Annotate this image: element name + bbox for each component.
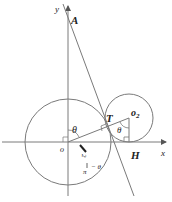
point-o2-label: o2 <box>131 107 140 120</box>
y-axis-label: y <box>54 4 59 14</box>
theta-o2-label: θ <box>117 125 122 135</box>
x-axis-label: x <box>160 148 165 158</box>
point-h-label: H <box>130 149 140 161</box>
point-t-label: T <box>106 112 114 124</box>
geometry-diagram: y x o A T o2 H θ θ 2 π − θ <box>0 0 172 202</box>
right-angle-origin <box>63 137 68 142</box>
theta-origin-label: θ <box>72 124 77 135</box>
origin-label: o <box>60 145 64 154</box>
point-a-label: A <box>70 14 78 26</box>
svg-text:− θ: − θ <box>91 163 101 171</box>
svg-text:π: π <box>83 168 87 176</box>
svg-text:2: 2 <box>80 154 88 158</box>
complement-angle-arrow <box>80 145 86 152</box>
